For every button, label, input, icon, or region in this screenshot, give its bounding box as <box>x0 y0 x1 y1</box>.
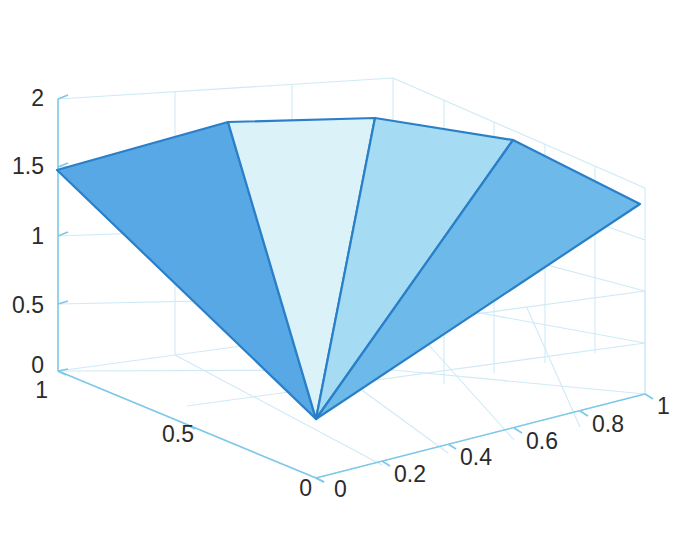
x-tick <box>580 411 588 416</box>
leftwall-gridline-z <box>58 78 393 99</box>
x-tick-label: 1 <box>657 395 670 418</box>
x-tick <box>645 394 653 399</box>
y-tick-label: 0.5 <box>162 423 194 446</box>
z-tick-label: 1 <box>31 225 44 248</box>
x-tick-label: 0.2 <box>394 463 426 486</box>
surface-plot-figure: 2 1.5 1 0.5 0 1 0.5 0 0 0.2 0.4 0.6 0.8 … <box>0 0 678 534</box>
surface-patches <box>57 118 640 419</box>
x-tick-label: 0.8 <box>592 413 624 436</box>
x-tick <box>382 461 390 466</box>
x-tick-label: 0.4 <box>460 446 492 469</box>
z-tick-label: 2 <box>31 87 44 110</box>
z-tick-label: 0 <box>31 354 44 377</box>
y-tick-label: 1 <box>35 379 48 402</box>
x-tick-label: 0 <box>334 478 347 501</box>
x-tick <box>316 478 324 482</box>
x-tick <box>514 428 522 433</box>
rightwall-gridline-z <box>393 370 645 394</box>
z-tick-label: 0.5 <box>12 294 44 317</box>
y-tick-label: 0 <box>299 477 312 500</box>
z-tick-label: 1.5 <box>12 155 44 178</box>
plot-canvas <box>0 0 678 534</box>
x-tick-label: 0.6 <box>526 430 558 453</box>
x-tick <box>448 444 456 449</box>
